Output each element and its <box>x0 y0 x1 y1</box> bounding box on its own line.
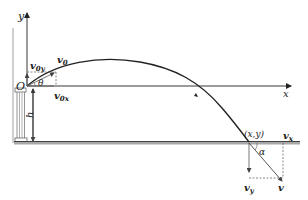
y-axis-label: y <box>17 10 25 23</box>
diagram-canvas: y x O h v0y v0 v0x θ (x,y) vx α vy v <box>0 0 308 200</box>
v-vector <box>249 143 282 181</box>
x-axis-label: x <box>283 88 289 99</box>
landing-point-label: (x,y) <box>244 129 265 139</box>
vy-label: vy <box>244 182 255 195</box>
v0-label: v0 <box>57 54 68 67</box>
projectile-diagram: y x O h v0y v0 v0x θ (x,y) vx α vy v <box>0 0 308 200</box>
trajectory-direction-arrow-icon <box>194 93 198 97</box>
v0x-label: v0x <box>54 90 70 103</box>
height-label: h <box>24 112 35 118</box>
landing-angle-label: α <box>259 147 265 157</box>
v0y-label: v0y <box>30 60 46 73</box>
launch-angle-label: θ <box>38 78 44 88</box>
origin-label: O <box>16 80 25 93</box>
v-label: v <box>278 182 284 193</box>
